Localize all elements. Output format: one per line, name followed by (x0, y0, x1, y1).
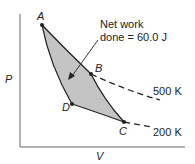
x-axis-label: V (96, 151, 103, 162)
point-a (40, 23, 44, 27)
point-label-c: C (119, 126, 127, 137)
pv-diagram (0, 0, 195, 164)
isotherm-label-500k: 500 K (153, 86, 182, 97)
annotation-line-1: Net work (100, 19, 143, 30)
annotation-line-2: done = 60.0 J (100, 32, 167, 43)
point-d (70, 102, 74, 106)
point-c (122, 120, 126, 124)
point-label-b: B (95, 63, 102, 74)
isotherm-label-200k: 200 K (153, 127, 182, 138)
isotherm-200k (124, 122, 152, 127)
y-axis-label: P (5, 74, 12, 85)
point-label-d: D (62, 102, 70, 113)
point-label-a: A (37, 11, 44, 22)
point-b (89, 72, 93, 76)
